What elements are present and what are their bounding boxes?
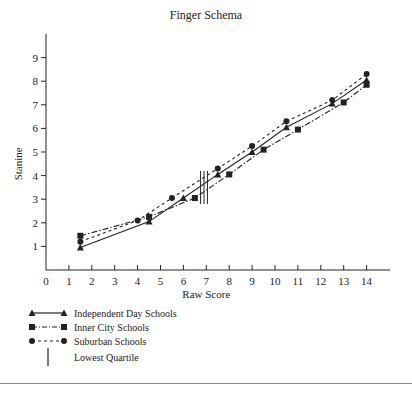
x-axis-label: Raw Score	[182, 288, 230, 300]
y-tick-label: 8	[33, 75, 39, 87]
legend-label: Independent Day Schools	[74, 308, 177, 319]
circle-marker	[215, 166, 221, 172]
y-tick-label: 6	[33, 122, 39, 134]
x-tick-label: 0	[43, 275, 49, 287]
y-tick-label: 7	[33, 99, 39, 111]
x-tick-label: 14	[361, 275, 373, 287]
triangle-marker	[283, 124, 290, 131]
legend-item-inner-city: Inner City Schools	[28, 320, 177, 334]
square-marker	[364, 82, 370, 88]
circle-marker	[135, 217, 141, 223]
square-dashdot-line-icon	[28, 320, 68, 334]
x-tick-label: 3	[112, 275, 118, 287]
line-chart: 12345678901234567891011121314Raw ScoreSt…	[0, 0, 412, 300]
square-marker	[261, 147, 267, 153]
y-tick-label: 3	[33, 193, 39, 205]
x-tick-label: 13	[338, 275, 350, 287]
y-axis-label: Stanine	[12, 147, 24, 180]
circle-marker	[249, 143, 255, 149]
square-marker	[295, 127, 301, 133]
x-tick-label: 11	[293, 275, 304, 287]
x-tick-label: 12	[315, 275, 326, 287]
y-tick-label: 4	[33, 170, 39, 182]
y-tick-label: 1	[33, 240, 39, 252]
series-line	[80, 74, 366, 242]
square-marker	[226, 171, 232, 177]
square-marker	[146, 214, 152, 220]
legend-item-lowest-quartile: Lowest Quartile	[28, 348, 177, 366]
legend-item-independent: Independent Day Schools	[28, 306, 177, 320]
triangle-marker	[180, 195, 187, 202]
series-line	[80, 80, 366, 248]
x-tick-label: 2	[89, 275, 95, 287]
x-tick-label: 4	[135, 275, 141, 287]
series-line	[80, 85, 366, 236]
square-marker	[192, 195, 198, 201]
legend-label: Inner City Schools	[74, 322, 149, 333]
x-tick-label: 1	[66, 275, 72, 287]
triangle-marker	[249, 149, 256, 156]
circle-marker	[77, 239, 83, 245]
x-tick-label: 8	[226, 275, 232, 287]
triangle-solid-line-icon	[28, 306, 68, 320]
y-tick-label: 9	[33, 52, 39, 64]
circle-marker	[364, 71, 370, 77]
square-marker	[341, 99, 347, 105]
legend-label: Lowest Quartile	[74, 352, 139, 363]
circle-marker	[169, 195, 175, 201]
circle-dashed-line-icon	[28, 334, 68, 348]
x-tick-label: 6	[181, 275, 187, 287]
square-marker	[77, 233, 83, 239]
triangle-marker	[77, 244, 84, 251]
legend: Independent Day Schools Inner City Schoo…	[28, 306, 177, 366]
triangle-marker	[214, 171, 221, 178]
circle-marker	[329, 97, 335, 103]
legend-item-suburban: Suburban Schools	[28, 334, 177, 348]
x-tick-label: 7	[204, 275, 210, 287]
x-tick-label: 5	[158, 275, 164, 287]
x-tick-label: 10	[270, 275, 282, 287]
divider	[0, 383, 412, 384]
y-tick-label: 5	[33, 146, 39, 158]
y-tick-label: 2	[33, 217, 39, 229]
legend-label: Suburban Schools	[74, 336, 147, 347]
x-tick-label: 9	[249, 275, 255, 287]
vertical-line-icon	[28, 348, 68, 366]
circle-marker	[283, 118, 289, 124]
